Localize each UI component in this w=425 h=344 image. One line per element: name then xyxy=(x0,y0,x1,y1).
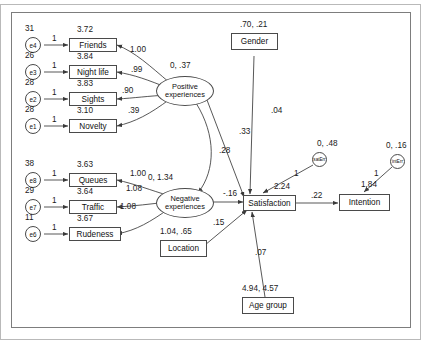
indicator-mean-friends: 3.72 xyxy=(77,26,93,34)
loading-neg-rudeness: 1.08 xyxy=(120,203,136,211)
indicator-mean-queues: 3.63 xyxy=(77,161,93,169)
path-label-gender-to-sat: .04 xyxy=(271,107,282,115)
loading-e6-rudeness: 1 xyxy=(52,224,57,232)
indicator-mean-traffic: 3.64 xyxy=(77,188,93,196)
loading-neg-queues: 1.00 xyxy=(130,170,146,178)
loading-interr-intention: 1 xyxy=(374,170,379,178)
indicator-mean-rudeness: 3.67 xyxy=(77,215,93,223)
latent-params-positive: 0, .37 xyxy=(170,62,191,70)
indicator-mean-novelty: 3.10 xyxy=(77,107,93,115)
loading-e8-queues: 1 xyxy=(52,170,57,178)
error-variance-intention: 0, .16 xyxy=(386,142,407,150)
latent-label-line2: experiences xyxy=(165,91,205,99)
indicator-mean-sights: 3.83 xyxy=(77,80,93,88)
path-arrows-layer xyxy=(0,0,425,344)
observed-intention[interactable]: Intention xyxy=(339,194,390,211)
loading-e4-friends: 1 xyxy=(52,35,57,43)
error-variance-e7: 29 xyxy=(25,187,34,195)
path-label-pos-to-sat: .33 xyxy=(239,128,250,136)
indicator-sights[interactable]: Sights xyxy=(69,92,117,106)
path-diagram-canvas: e4 31 e3 26 e2 28 e1 28 e8 38 e7 29 e6 1… xyxy=(0,0,425,344)
path-label-covariance-pos-neg: .28 xyxy=(219,147,230,155)
latent-label-line2: experiences xyxy=(165,203,205,211)
indicator-queues[interactable]: Queues xyxy=(69,173,117,187)
loading-pos-nightlife: .99 xyxy=(131,66,142,74)
error-variance-e1: 28 xyxy=(25,106,34,114)
observed-label: Age group xyxy=(249,301,287,310)
error-label: intErr xyxy=(392,159,403,164)
indicator-label: Night life xyxy=(77,68,109,77)
loading-e2-sights: 1 xyxy=(52,89,57,97)
error-node-e1[interactable]: e1 xyxy=(25,118,41,134)
indicator-label: Rudeness xyxy=(77,230,114,239)
loading-neg-traffic: 1.08 xyxy=(126,185,142,193)
error-label: e4 xyxy=(29,42,36,49)
indicator-novelty[interactable]: Novelty xyxy=(69,119,117,133)
latent-negative-experiences[interactable]: Negative experiences xyxy=(156,188,214,218)
indicator-label: Sights xyxy=(82,95,105,104)
path-label-sat-to-intention: .22 xyxy=(311,192,322,200)
observed-label: Intention xyxy=(349,198,380,207)
error-node-intention[interactable]: intErr xyxy=(390,154,405,169)
path-label-agegroup-to-sat: .07 xyxy=(255,249,266,257)
error-variance-e4: 31 xyxy=(25,25,34,33)
observed-label: Gender xyxy=(241,37,268,46)
observed-age-group[interactable]: Age group xyxy=(242,297,294,314)
error-label: e7 xyxy=(29,204,36,211)
error-label: e8 xyxy=(29,177,36,184)
indicator-label: Novelty xyxy=(79,122,106,131)
indicator-night-life[interactable]: Night life xyxy=(69,65,117,79)
error-variance-e8: 38 xyxy=(25,160,34,168)
error-variance-satisfaction: 0, .48 xyxy=(317,140,338,148)
indicator-traffic[interactable]: Traffic xyxy=(69,200,117,214)
indicator-label: Queues xyxy=(79,176,108,185)
loading-pos-novelty: .39 xyxy=(128,107,139,115)
loading-e7-traffic: 1 xyxy=(52,197,57,205)
indicator-mean-night-life: 3.84 xyxy=(77,53,93,61)
observed-label: Location xyxy=(168,244,199,253)
observed-gender[interactable]: Gender xyxy=(231,33,278,50)
error-variance-e3: 26 xyxy=(25,52,34,60)
observed-params-location: 1.04, .65 xyxy=(160,228,192,236)
intercept-intention: 1.84 xyxy=(361,181,377,189)
error-label: e3 xyxy=(29,69,36,76)
latent-params-negative: 0, 1.34 xyxy=(148,174,173,182)
observed-label: Satisfaction xyxy=(248,199,290,208)
error-label: e6 xyxy=(29,231,36,238)
indicator-label: Friends xyxy=(79,41,106,50)
error-variance-e2: 28 xyxy=(25,79,34,87)
observed-location[interactable]: Location xyxy=(160,240,207,257)
error-variance-e6: 11 xyxy=(25,214,34,222)
loading-pos-friends: 1.00 xyxy=(130,46,146,54)
latent-positive-experiences[interactable]: Positive experiences xyxy=(156,76,214,106)
error-label: e1 xyxy=(29,123,36,130)
observed-satisfaction[interactable]: Satisfaction xyxy=(243,195,296,211)
error-label: satErr xyxy=(313,157,325,162)
intercept-satisfaction: 2.24 xyxy=(274,183,290,191)
error-node-e6[interactable]: e6 xyxy=(25,226,41,242)
observed-params-age-group: 4.94, 4.57 xyxy=(242,285,278,293)
loading-pos-sights: .90 xyxy=(122,87,133,95)
indicator-friends[interactable]: Friends xyxy=(69,38,117,52)
error-label: e2 xyxy=(29,96,36,103)
indicator-label: Traffic xyxy=(82,203,104,212)
path-label-location-to-sat: .15 xyxy=(213,219,224,227)
indicator-rudeness[interactable]: Rudeness xyxy=(69,227,121,241)
error-node-satisfaction[interactable]: satErr xyxy=(312,152,327,167)
loading-saterr-satisfaction: 1 xyxy=(294,170,299,178)
observed-params-gender: .70, .21 xyxy=(240,21,267,29)
loading-e1-novelty: 1 xyxy=(52,116,57,124)
path-label-neg-to-sat: -.16 xyxy=(223,190,237,198)
loading-e3-nightlife: 1 xyxy=(52,62,57,70)
